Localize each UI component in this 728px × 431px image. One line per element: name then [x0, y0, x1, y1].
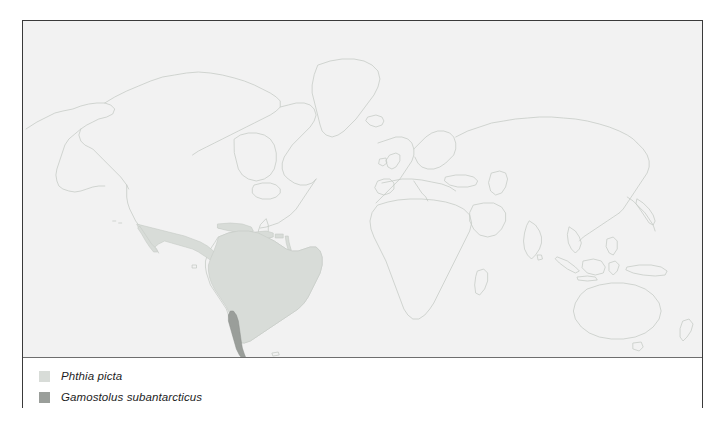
- legend-item-gamostolus-subantarcticus: Gamostolus subantarcticus: [33, 388, 702, 407]
- range-puerto-rico: [275, 234, 283, 238]
- figure-root: Phthia picta Gamostolus subantarcticus: [0, 0, 728, 431]
- map-background: [23, 21, 702, 357]
- legend-label-gamostolus-subantarcticus: Gamostolus subantarcticus: [61, 392, 202, 404]
- figure-frame: Phthia picta Gamostolus subantarcticus: [22, 20, 703, 408]
- world-map: [23, 21, 702, 357]
- legend-swatch-phthia-picta: [39, 371, 50, 382]
- legend-panel: Phthia picta Gamostolus subantarcticus: [23, 358, 702, 409]
- legend-swatch-gamostolus-subantarcticus: [39, 392, 50, 403]
- legend-label-phthia-picta: Phthia picta: [61, 371, 122, 383]
- map-panel: [23, 21, 702, 357]
- legend-item-phthia-picta: Phthia picta: [33, 367, 702, 386]
